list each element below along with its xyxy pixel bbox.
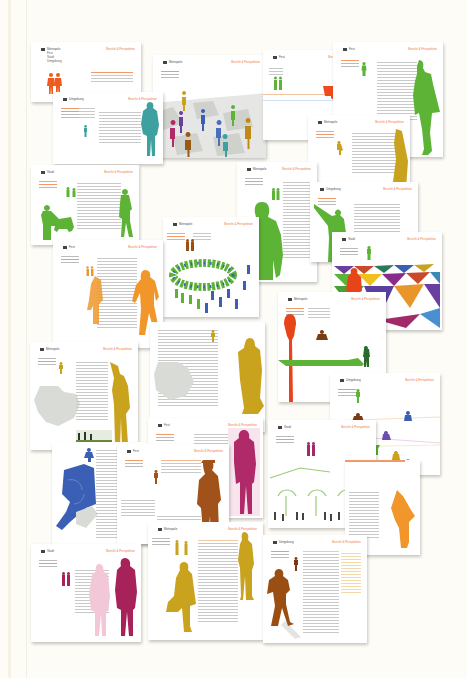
page-title: Bericht & Perspektive	[332, 540, 361, 544]
page-logo: Metropole	[173, 222, 192, 226]
page-menu	[167, 231, 185, 242]
page-menu	[276, 434, 294, 445]
silhouette-standing-figure	[392, 129, 408, 189]
page-title: Bericht & Perspektive	[128, 245, 157, 249]
page-title: Bericht & Perspektive	[228, 423, 257, 427]
page-title: Bericht & Perspektive	[408, 47, 437, 51]
page-menu	[38, 356, 56, 367]
footer-bar	[57, 334, 157, 336]
report-page-22: Stadt Bericht & Perspektive	[31, 544, 141, 642]
silhouette-small-figure	[83, 125, 88, 137]
page-logo: Fest	[63, 245, 75, 249]
page-title: Bericht & Perspektive	[351, 297, 380, 301]
page-menu	[245, 176, 263, 187]
silhouette-small-figure	[84, 448, 94, 462]
report-page-5: Umgebung Bericht & Perspektive	[53, 92, 163, 164]
silhouette-woman-with-bag	[166, 562, 196, 634]
text-block	[377, 60, 417, 122]
text-block	[77, 181, 121, 231]
page-logo: Metropole	[288, 297, 307, 301]
page-title: Bericht & Perspektive	[194, 449, 223, 453]
page-title: Bericht & Perspektive	[104, 170, 133, 174]
silhouette-standing-woman	[413, 60, 441, 157]
text-block	[303, 549, 339, 635]
page-logo: Fest	[127, 449, 139, 453]
silhouette-pair	[273, 76, 283, 90]
silhouette-standing-figure	[391, 490, 415, 548]
silhouette-woman-with-cart	[41, 205, 75, 241]
page-menu	[61, 254, 79, 265]
page-menu	[152, 536, 170, 547]
silhouette-man-arms-crossed	[267, 569, 301, 641]
silhouette-waving-man	[110, 362, 132, 448]
map-shadow	[34, 386, 80, 426]
page-logo: Stadt	[342, 237, 355, 241]
page-logo: Stadt	[41, 549, 54, 553]
page-menu	[156, 432, 174, 443]
report-page-10: Fest Bericht & Perspektive	[53, 240, 163, 348]
page-title: Bericht & Perspektive	[106, 47, 135, 51]
report-page-23: Metropole Bericht & Perspektive	[148, 522, 263, 640]
text-block	[198, 538, 238, 624]
text-block	[79, 106, 95, 120]
page-menu	[316, 129, 334, 140]
silhouette-small-figure	[366, 246, 372, 260]
silhouette-brown-figure	[316, 330, 328, 342]
page-logo: Umgebung	[320, 187, 341, 191]
silhouette-sitting-figure	[54, 452, 98, 532]
silhouette-small-figures	[85, 266, 95, 276]
page-logo: Fest	[158, 423, 170, 427]
silhouette-small-figures	[271, 188, 281, 200]
silhouette-magenta-man	[232, 430, 256, 516]
silhouette-magenta-man	[113, 558, 137, 638]
page-menu	[271, 549, 289, 560]
page-title: Bericht & Perspektive	[405, 378, 434, 382]
report-page-11: Metropole Bericht & Perspektive	[163, 217, 259, 317]
page-title: Bericht & Perspektive	[228, 527, 257, 531]
page-title: Bericht & Perspektive	[224, 222, 253, 226]
report-page-2: Metropole Bericht & Perspektive	[153, 55, 266, 158]
page-menu	[341, 58, 359, 69]
page-title: Bericht & Perspektive	[128, 97, 157, 101]
silhouette-standing-man	[141, 102, 159, 157]
page-menu	[61, 106, 79, 120]
page-title: Bericht & Perspektive	[375, 120, 404, 124]
header-line	[345, 460, 405, 462]
page-logo: Metropole	[247, 167, 266, 171]
text-block	[352, 131, 396, 175]
page-title: Bericht & Perspektive	[383, 187, 412, 191]
page-logo: Metropole	[158, 527, 177, 531]
text-block	[76, 360, 108, 422]
page-menu	[125, 458, 143, 469]
report-page-24: Umgebung Bericht & Perspektive	[263, 535, 367, 643]
text-block	[161, 458, 201, 475]
page-logo: Umgebung	[273, 540, 294, 544]
page-title: Bericht & Perspektive	[231, 60, 260, 64]
silhouette-standing-woman	[236, 532, 256, 602]
data-table	[91, 70, 133, 84]
text-block	[349, 490, 379, 540]
page-title: Bericht & Perspektive	[341, 425, 370, 429]
page-title: Bericht & Perspektive	[407, 237, 436, 241]
page-logo: Umgebung	[340, 378, 361, 382]
silhouette-brown-couple	[185, 239, 195, 251]
report-page-15	[150, 322, 265, 432]
page-logo: Umgebung	[63, 97, 84, 101]
silhouette-crowd-circle	[167, 253, 257, 315]
page-logo: Stadt	[41, 170, 54, 174]
page-menu	[340, 246, 358, 257]
page-menu	[161, 69, 179, 80]
page-logo: Metropole	[318, 120, 337, 124]
report-page-14: Metropole Bericht & Perspektive	[30, 342, 138, 450]
silhouette-small-figure	[58, 362, 64, 374]
silhouette-woman-with-bag	[87, 276, 103, 324]
page-logo: Fest	[273, 55, 285, 59]
text-block	[99, 110, 141, 145]
silhouette-couple	[47, 72, 63, 94]
text-block	[308, 306, 330, 320]
page-menu	[39, 179, 57, 190]
silhouette-small-figure	[153, 470, 159, 484]
page-logo: Metropole	[40, 347, 59, 351]
silhouette-standing-man	[238, 338, 264, 418]
page-menu: Fest Stadt Umgebung	[47, 51, 62, 63]
